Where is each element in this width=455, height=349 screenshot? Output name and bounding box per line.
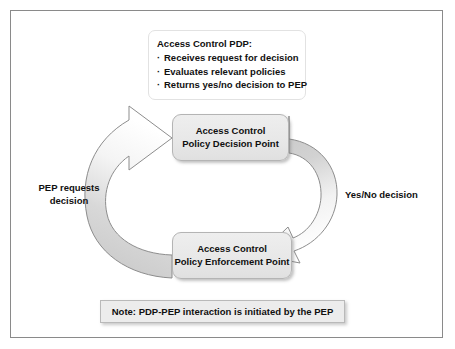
node-policy-enforcement-point[interactable]: Access Control Policy Enforcement Point	[172, 232, 292, 279]
diagram-canvas: Access Control PDP: Receives request for…	[0, 0, 455, 349]
node-pep-line2: Policy Enforcement Point	[174, 256, 289, 269]
node-pep-line1: Access Control	[197, 243, 267, 256]
callout-item: Evaluates relevant policies	[157, 65, 297, 79]
node-policy-decision-point[interactable]: Access Control Policy Decision Point	[172, 114, 289, 161]
pdp-callout: Access Control PDP: Receives request for…	[148, 30, 306, 100]
left-arrow-label: PEP requests decision	[28, 181, 110, 207]
left-arrow-label-line2: decision	[28, 194, 110, 207]
callout-item: Receives request for decision	[157, 51, 297, 65]
node-pdp-line1: Access Control	[196, 125, 266, 138]
left-arrow-label-line1: PEP requests	[28, 181, 110, 194]
note-text: Note: PDP-PEP interaction is initiated b…	[112, 306, 334, 317]
callout-item: Returns yes/no decision to PEP	[157, 78, 297, 92]
note-box: Note: PDP-PEP interaction is initiated b…	[100, 300, 345, 323]
callout-title: Access Control PDP:	[157, 37, 297, 50]
node-pdp-line2: Policy Decision Point	[182, 138, 279, 151]
right-arrow-label: Yes/No decision	[345, 188, 418, 201]
